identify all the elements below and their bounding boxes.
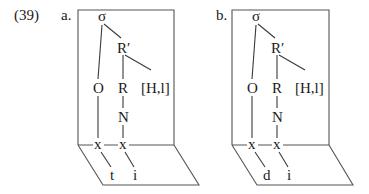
diagram-b: b. σ R′ O R [H,l] N x x d i	[216, 7, 353, 185]
node-tone-features: [H,l]	[141, 80, 170, 96]
diagram-a-frame	[78, 10, 199, 185]
branch-sigma-rprime	[258, 24, 275, 38]
node-rhyme: R	[272, 80, 282, 96]
node-x1: x	[248, 136, 256, 152]
segment-1: d	[263, 167, 271, 183]
node-r-prime: R′	[117, 40, 130, 56]
node-nucleus: N	[272, 109, 283, 125]
assoc-x2-seg2	[125, 152, 134, 167]
branch-rprime-tone	[279, 55, 305, 70]
segment-2: i	[133, 167, 137, 183]
assoc-x1-seg1	[101, 152, 111, 167]
branch-sigma-onset	[98, 25, 102, 79]
example-number: (39)	[14, 7, 39, 24]
diagram-b-label: b.	[216, 7, 227, 23]
node-onset: O	[247, 80, 258, 96]
node-x1: x	[94, 136, 102, 152]
branch-rprime-tone	[125, 55, 151, 70]
diagram-a: a. σ R′ O R [H,l] N x x t i	[61, 7, 199, 185]
diagram-a-label: a.	[61, 7, 71, 23]
node-sigma: σ	[98, 8, 106, 24]
node-nucleus: N	[118, 109, 129, 125]
node-tone-features: [H,l]	[295, 80, 324, 96]
branch-sigma-onset	[252, 25, 256, 79]
assoc-x1-seg1	[255, 152, 265, 167]
branch-sigma-rprime	[104, 24, 121, 38]
node-r-prime: R′	[271, 40, 284, 56]
segment-1: t	[110, 167, 115, 183]
node-rhyme: R	[118, 80, 128, 96]
syllable-structure-figure: (39) a. σ R′ O R [H,l] N x	[0, 0, 369, 194]
diagram-b-frame	[232, 10, 353, 185]
segment-2: i	[287, 167, 291, 183]
node-x2: x	[119, 136, 127, 152]
node-sigma: σ	[252, 8, 260, 24]
node-x2: x	[273, 136, 281, 152]
node-onset: O	[93, 80, 104, 96]
assoc-x2-seg2	[279, 152, 288, 167]
